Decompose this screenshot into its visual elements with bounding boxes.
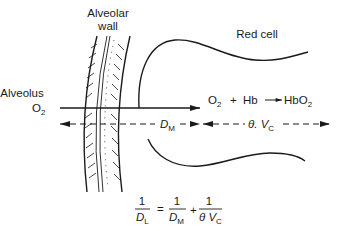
theta-vc-label: θ. VC [248, 118, 274, 133]
alveolar-wall-label-line1: Alveolar [87, 7, 129, 19]
red-cell-label: Red cell [236, 28, 278, 40]
reaction-hb: Hb [243, 94, 258, 106]
lhs-denominator: DL [136, 211, 149, 226]
reaction-equation: O2 + Hb HbO2 [208, 94, 313, 109]
plus-sign: + [190, 204, 197, 216]
term2-denominator: θ VC [199, 211, 222, 226]
alveolar-wall [84, 36, 130, 192]
reaction-product: HbO2 [284, 94, 313, 109]
alveolar-wall-label-line2: wall [97, 20, 118, 32]
diagram-svg: Alveolar wall Red cell Alveolus O2 [0, 0, 340, 231]
equals-sign: = [157, 203, 164, 215]
red-cell-outline [139, 40, 308, 166]
reaction-plus: + [230, 94, 237, 106]
diffusing-capacity-formula: 1 DL = 1 DM + 1 θ VC [135, 195, 222, 226]
alveolus-label: Alveolus [0, 87, 44, 99]
lhs-numerator: 1 [139, 195, 145, 207]
term1-numerator: 1 [174, 195, 180, 207]
reaction-o2: O2 [208, 94, 222, 109]
wall-hatching-right [111, 44, 124, 180]
term2-numerator: 1 [206, 195, 212, 207]
term1-denominator: DM [169, 211, 184, 226]
alveolus-o2-label: O2 [32, 102, 46, 117]
diffusion-diagram: Alveolar wall Red cell Alveolus O2 [0, 0, 340, 231]
dm-label: DM [160, 118, 175, 133]
